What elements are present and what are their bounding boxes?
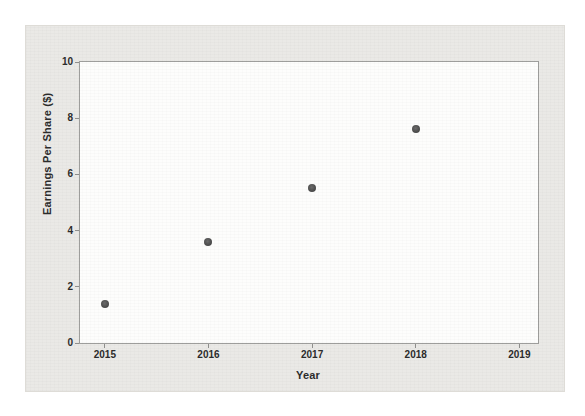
x-tick-label: 2016 [188,350,228,360]
data-point [101,300,109,308]
y-axis-title: Earnings Per Share ($) [41,201,53,215]
y-tick-mark [75,230,79,231]
y-tick-mark [75,343,79,344]
y-tick-label: 2 [67,282,73,292]
scatter-plot-figure: Earnings Per Share ($) 02468102015201620… [25,25,565,392]
y-tick-mark [75,286,79,287]
y-tick-label: 0 [67,338,73,348]
data-point [412,125,420,133]
y-tick-label: 6 [67,169,73,179]
y-tick-mark [75,62,79,63]
y-tick-label: 8 [67,113,73,123]
plot-area: 024681020152016201720182019 [79,61,539,344]
x-tick-mark [104,344,105,348]
x-tick-mark [312,344,313,348]
x-tick-mark [208,344,209,348]
x-tick-mark [519,344,520,348]
data-point [308,184,316,192]
x-tick-label: 2017 [292,350,332,360]
x-tick-label: 2015 [85,350,125,360]
x-axis-title: Year [79,369,537,381]
y-tick-mark [75,174,79,175]
y-tick-label: 10 [62,57,73,67]
y-tick-mark [75,118,79,119]
x-tick-label: 2018 [396,350,436,360]
x-tick-mark [415,344,416,348]
data-point [204,238,212,246]
y-tick-label: 4 [67,226,73,236]
page: Earnings Per Share ($) 02468102015201620… [0,0,585,416]
x-tick-label: 2019 [499,350,539,360]
